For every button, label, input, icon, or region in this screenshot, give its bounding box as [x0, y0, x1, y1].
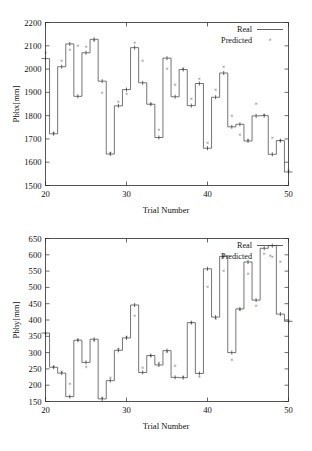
y-tick-label: 2000 [24, 64, 41, 74]
y-tick-label: 650 [29, 234, 42, 244]
predicted-marker: × [279, 138, 282, 144]
y-tick-label: 1600 [24, 157, 41, 167]
predicted-marker: × [52, 130, 55, 136]
predicted-marker: × [246, 271, 249, 277]
y-axis-label-top: Pbhx[mm] [11, 85, 21, 122]
series-real-bottom [41, 244, 292, 401]
predicted-marker: × [165, 349, 168, 355]
predicted-marker: × [198, 374, 201, 380]
predicted-marker: × [214, 316, 217, 322]
predicted-marker: × [84, 364, 87, 370]
predicted-marker: × [230, 113, 233, 119]
predicted-marker: × [174, 363, 177, 369]
y-tick-label: 150 [29, 397, 42, 407]
predicted-marker: × [190, 320, 193, 326]
predicted-marker: × [182, 66, 185, 72]
predicted-marker: × [84, 44, 87, 50]
predicted-marker: × [93, 338, 96, 344]
chart-pbhx-svg: 15001600170018001900200021002200 2030405… [0, 0, 312, 225]
predicted-marker: × [263, 251, 266, 257]
predicted-marker: × [238, 307, 241, 313]
predicted-marker: × [133, 40, 136, 46]
real-step-line [41, 246, 292, 399]
x-tick-label: 40 [203, 405, 212, 415]
predicted-marker: × [271, 135, 274, 141]
figure-page: 15001600170018001900200021002200 2030405… [0, 0, 312, 451]
predicted-marker: × [44, 50, 47, 56]
predicted-marker: × [68, 381, 71, 387]
predicted-marker: × [125, 91, 128, 97]
predicted-marker: × [141, 58, 144, 64]
predicted-marker: × [206, 140, 209, 146]
predicted-marker: × [44, 331, 47, 337]
predicted-marker: × [76, 337, 79, 343]
legend-top: Real Predicted × [221, 25, 283, 45]
x-axis-ticks-top: 20304050 [41, 23, 293, 199]
chart-pbhy: 150200250300350400450500550600650 203040… [0, 225, 312, 451]
predicted-marker: × [93, 38, 96, 44]
predicted-marker: × [174, 82, 177, 88]
predicted-marker: × [287, 168, 290, 174]
predicted-marker: × [133, 313, 136, 319]
x-axis-label-top: Trial Number [143, 205, 190, 215]
predicted-marker: × [198, 76, 201, 82]
y-tick-label: 450 [29, 299, 42, 309]
y-tick-label: 600 [29, 250, 42, 260]
predicted-marker: × [109, 375, 112, 381]
legend-cross-icon-top: × [268, 37, 271, 43]
chart-pbhx: 15001600170018001900200021002200 2030405… [0, 0, 312, 225]
y-tick-label: 550 [29, 266, 42, 276]
predicted-marker: × [52, 364, 55, 370]
x-tick-label: 20 [41, 189, 50, 199]
x-axis-label-bottom: Trial Number [143, 421, 190, 431]
predicted-marker: × [190, 96, 193, 102]
y-tick-label: 2200 [24, 18, 41, 28]
plot-frame-top [46, 23, 289, 186]
x-tick-label: 30 [122, 405, 131, 415]
y-axis-label-bottom: Pbhy[mm] [11, 301, 21, 338]
legend-label-real-top: Real [237, 25, 253, 34]
y-tick-label: 1800 [24, 111, 41, 121]
predicted-marker: × [101, 90, 104, 96]
series-predicted-bottom: ××××××××××××××××××××××××××××××× [44, 251, 290, 401]
x-axis-ticks-bottom: 20304050 [41, 239, 293, 415]
predicted-marker: × [165, 66, 168, 72]
predicted-marker: × [117, 346, 120, 352]
legend-label-predicted-bottom: Predicted [221, 252, 252, 261]
predicted-marker: × [206, 284, 209, 290]
predicted-marker: × [101, 395, 104, 401]
y-tick-label: 500 [29, 282, 42, 292]
y-tick-label: 200 [29, 380, 42, 390]
legend-label-predicted-top: Predicted [221, 36, 252, 45]
predicted-marker: × [222, 268, 225, 274]
predicted-marker: × [238, 132, 241, 138]
y-tick-label: 350 [29, 331, 42, 341]
predicted-marker: × [68, 47, 71, 53]
x-tick-label: 30 [122, 189, 131, 199]
y-tick-label: 250 [29, 364, 42, 374]
predicted-marker: × [117, 99, 120, 105]
predicted-marker: × [255, 303, 258, 309]
predicted-marker: × [76, 43, 79, 49]
predicted-marker: × [149, 353, 152, 359]
predicted-marker: × [287, 318, 290, 324]
y-tick-label: 1900 [24, 87, 41, 97]
y-tick-label: 300 [29, 348, 42, 358]
predicted-marker: × [263, 112, 266, 118]
predicted-marker: × [230, 357, 233, 363]
predicted-marker: × [141, 365, 144, 371]
predicted-marker: × [222, 64, 225, 70]
y-tick-label: 2100 [24, 41, 41, 51]
predicted-marker: × [214, 87, 217, 93]
chart-pbhy-svg: 150200250300350400450500550600650 203040… [0, 225, 312, 451]
predicted-marker: × [109, 150, 112, 156]
x-tick-label: 40 [203, 189, 212, 199]
predicted-marker: × [246, 137, 249, 143]
x-tick-label: 20 [41, 405, 50, 415]
legend-cross-icon-bottom: × [268, 253, 271, 259]
y-tick-label: 1500 [24, 181, 41, 191]
x-tick-label: 50 [284, 405, 293, 415]
predicted-marker: × [60, 58, 63, 64]
predicted-marker: × [157, 360, 160, 366]
predicted-marker: × [125, 334, 128, 340]
